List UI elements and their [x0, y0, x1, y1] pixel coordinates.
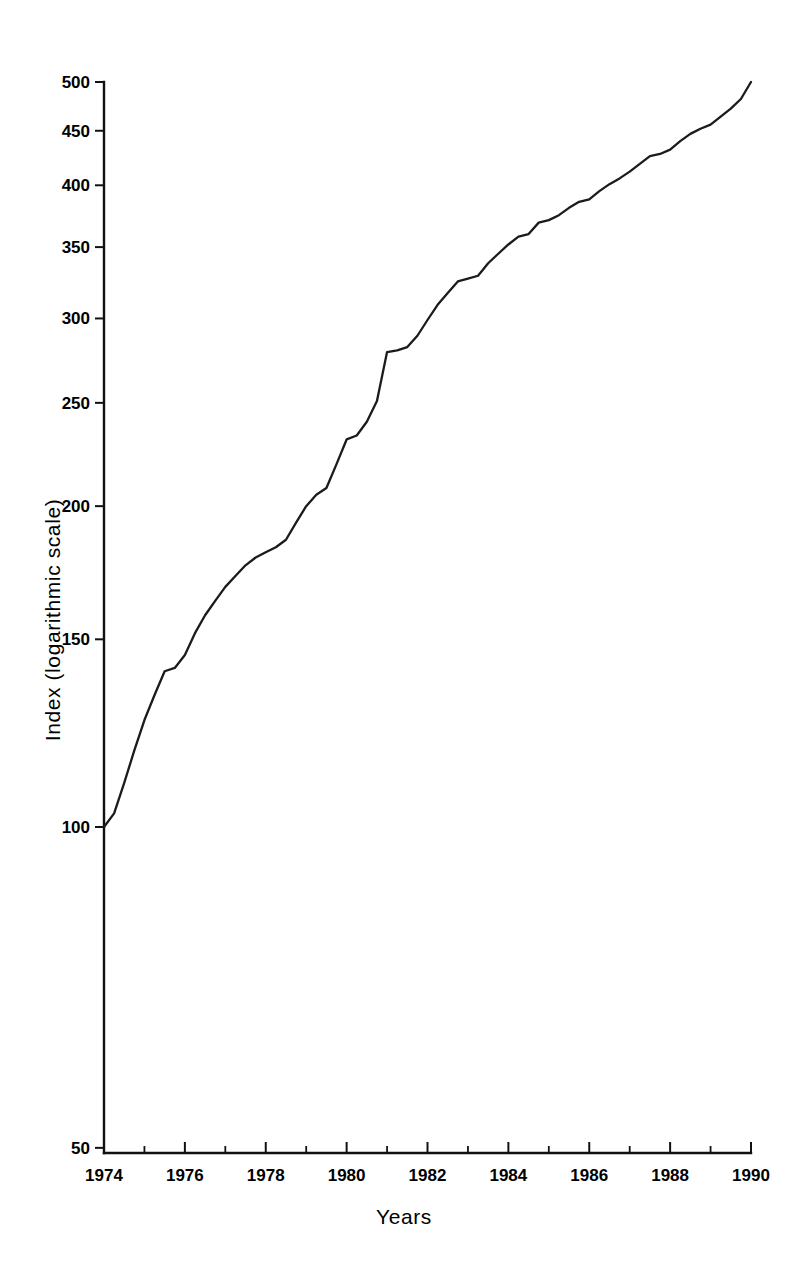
- x-tick-label: 1976: [166, 1166, 204, 1185]
- y-tick-label: 150: [62, 630, 90, 649]
- chart-figure: 50100150200250300350400450500 1974197619…: [0, 0, 804, 1284]
- y-tick-label: 450: [62, 122, 90, 141]
- y-tick-label: 100: [62, 818, 90, 837]
- y-tick-label: 300: [62, 309, 90, 328]
- y-tick-label: 50: [71, 1139, 90, 1158]
- chart-canvas: 50100150200250300350400450500 1974197619…: [0, 0, 804, 1284]
- x-axis-title: Years: [376, 1205, 432, 1228]
- x-tick-label: 1990: [732, 1166, 770, 1185]
- x-tick-label: 1988: [651, 1166, 689, 1185]
- x-tick-label: 1986: [570, 1166, 608, 1185]
- x-tick-label: 1974: [85, 1166, 123, 1185]
- x-tick-label: 1982: [409, 1166, 447, 1185]
- data-line-index: [104, 82, 751, 827]
- x-tick-label: 1980: [328, 1166, 366, 1185]
- data-series-group: [104, 82, 751, 827]
- y-tick-label: 400: [62, 176, 90, 195]
- x-axis-tick-labels: 197419761978198019821984198619881990: [85, 1166, 770, 1185]
- y-tick-label: 200: [62, 497, 90, 516]
- y-axis-title: Index (logarithmic scale): [41, 499, 64, 742]
- y-axis-tick-labels: 50100150200250300350400450500: [62, 73, 90, 1158]
- axis-lines: [104, 82, 751, 1153]
- y-axis-ticks: [95, 82, 104, 1148]
- x-tick-label: 1984: [489, 1166, 527, 1185]
- x-axis-ticks: [104, 1142, 751, 1153]
- y-tick-label: 250: [62, 394, 90, 413]
- y-tick-label: 350: [62, 238, 90, 257]
- x-tick-label: 1978: [247, 1166, 285, 1185]
- y-tick-label: 500: [62, 73, 90, 92]
